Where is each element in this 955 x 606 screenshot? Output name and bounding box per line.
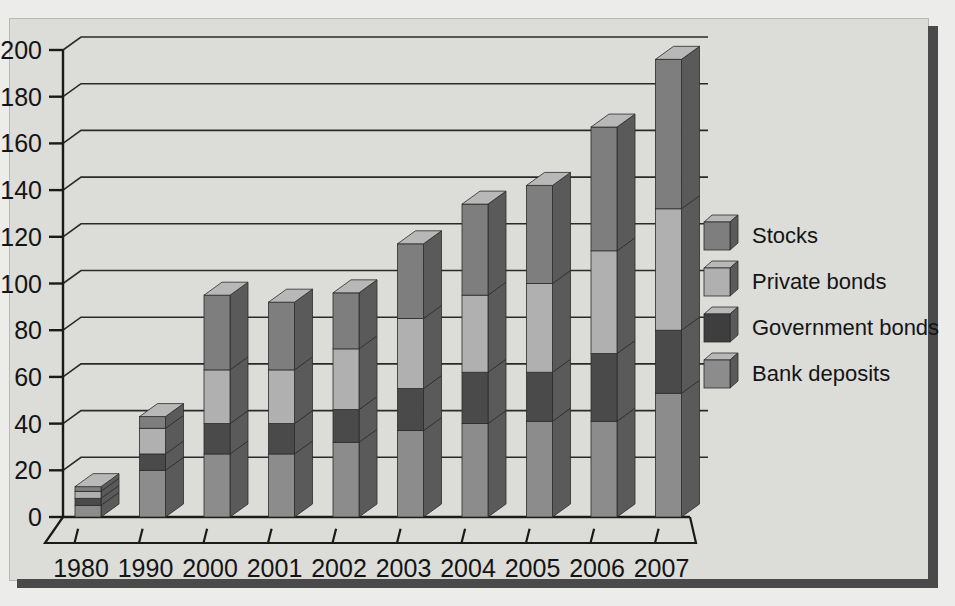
bar-side-face (488, 191, 506, 295)
gridline (63, 37, 708, 50)
bar-front-face (333, 410, 359, 443)
bar-segment (462, 191, 506, 295)
x-axis-tick (655, 529, 659, 543)
x-tick-label: 1990 (118, 554, 174, 582)
bar-side-face (553, 408, 571, 517)
chart-legend: StocksPrivate bondsGovernment bondsBank … (704, 215, 939, 388)
y-tick-label: 120 (0, 223, 42, 251)
bars-group (75, 46, 700, 517)
y-tick-label: 0 (28, 503, 42, 531)
x-tick-label: 1980 (53, 554, 109, 582)
bar-segment (462, 411, 506, 517)
bar-segment (462, 282, 506, 372)
x-axis-tick (591, 529, 595, 543)
bar-front-face (591, 421, 617, 517)
bar-front-face (75, 498, 101, 505)
legend-label: Stocks (752, 223, 818, 248)
bar-segment (527, 172, 571, 283)
bar-segment (656, 46, 700, 208)
bar-side-face (488, 282, 506, 372)
x-axis-group (45, 517, 696, 543)
x-axis-tick (397, 529, 401, 543)
bar-front-face (398, 431, 424, 517)
x-tick-label: 2007 (634, 554, 690, 582)
bar-front-face (656, 393, 682, 517)
x-axis-tick (268, 529, 272, 543)
bar-front-face (462, 204, 488, 295)
bar-side-face (617, 114, 635, 251)
x-tick-label: 2002 (311, 554, 367, 582)
bar-front-face (75, 491, 101, 498)
bar-front-face (398, 244, 424, 319)
bar-front-face (462, 295, 488, 372)
chart-page: 020406080100120140160180200 198019902000… (0, 0, 955, 606)
x-axis-tick (333, 529, 337, 543)
bar-segment (656, 196, 700, 330)
x-axis-tick (75, 529, 79, 543)
bar-front-face (462, 372, 488, 423)
x-tick-labels-group: 1980199020002001200220032004200520062007 (53, 554, 689, 582)
bar-front-face (656, 330, 682, 393)
bar-front-face (75, 487, 101, 492)
bar-front-face (333, 442, 359, 517)
bar-front-face (140, 470, 166, 517)
bar-side-face (617, 408, 635, 517)
legend-label: Bank deposits (752, 361, 890, 386)
x-tick-label: 2001 (247, 554, 303, 582)
bar-side-face (424, 231, 442, 319)
x-axis-tick (526, 529, 530, 543)
x-tick-label: 2005 (505, 554, 561, 582)
y-tick-label: 60 (14, 363, 42, 391)
bar-front-face (591, 127, 617, 251)
bar-front-face (204, 295, 230, 370)
gridline (63, 84, 708, 97)
bar-side-face (553, 271, 571, 373)
bar-segment (591, 238, 635, 354)
y-tick-label: 200 (0, 36, 42, 64)
y-tick-label: 160 (0, 129, 42, 157)
y-tick-label: 20 (14, 456, 42, 484)
stacked-bar-chart: 020406080100120140160180200 198019902000… (0, 0, 955, 606)
x-tick-label: 2000 (182, 554, 238, 582)
bar-front-face (269, 370, 295, 424)
legend-item: Bank deposits (704, 353, 890, 388)
bar-front-face (527, 421, 553, 517)
legend-item: Stocks (704, 215, 818, 250)
bar-front-face (204, 370, 230, 424)
bar-side-face (424, 306, 442, 389)
x-tick-label: 2004 (440, 554, 496, 582)
bar-segment (527, 271, 571, 373)
bar-side-face (230, 282, 248, 370)
y-tick-labels-group: 020406080100120140160180200 (0, 36, 42, 531)
legend-swatch (704, 222, 730, 250)
bar-side-face (682, 380, 700, 517)
bar-side-face (682, 196, 700, 330)
bar-segment (591, 408, 635, 517)
bar-front-face (527, 372, 553, 421)
bar-front-face (527, 284, 553, 373)
bar-side-face (553, 172, 571, 283)
bar-front-face (269, 454, 295, 517)
legend-label: Private bonds (752, 269, 887, 294)
x-axis-tick (139, 529, 143, 543)
bar-front-face (462, 424, 488, 517)
bar-side-face (617, 238, 635, 354)
x-axis-tick (462, 529, 466, 543)
bar-front-face (204, 424, 230, 454)
bar-front-face (140, 417, 166, 429)
legend-swatch (704, 268, 730, 296)
y-tick-label: 180 (0, 83, 42, 111)
bar-front-face (269, 302, 295, 370)
bar-front-face (398, 389, 424, 431)
x-tick-label: 2003 (376, 554, 432, 582)
bar-front-face (398, 319, 424, 389)
x-axis-tick (204, 529, 208, 543)
bar-segment (656, 380, 700, 517)
bar-front-face (140, 428, 166, 454)
x-tick-label: 2006 (569, 554, 625, 582)
bar-front-face (527, 185, 553, 283)
bar-front-face (333, 349, 359, 410)
y-axis-group (49, 50, 63, 517)
bar-side-face (682, 46, 700, 208)
bar-front-face (140, 454, 166, 470)
